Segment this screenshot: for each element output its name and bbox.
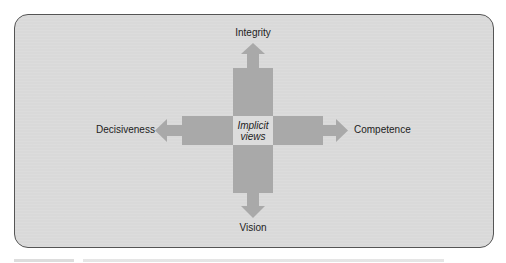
label-left: Decisiveness — [96, 124, 155, 135]
arrow-right-icon — [323, 119, 348, 142]
label-bottom: Vision — [239, 222, 266, 233]
arrow-up-icon — [241, 43, 265, 68]
cut-off-caption — [14, 257, 444, 263]
arrow-down-icon — [241, 193, 265, 218]
label-top: Integrity — [235, 27, 271, 38]
label-right: Competence — [354, 124, 411, 135]
arrow-left-icon — [155, 119, 182, 142]
